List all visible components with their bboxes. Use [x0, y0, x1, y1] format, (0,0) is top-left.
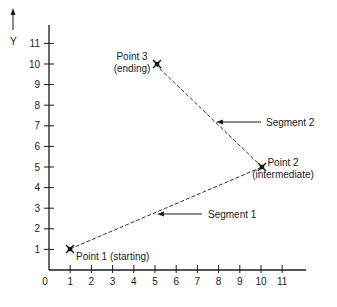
segment-1-arrow-icon	[157, 212, 202, 217]
x-tick-label: 6	[173, 276, 179, 287]
x-tick-label: 0	[42, 276, 48, 287]
y-tick-label: 4	[34, 182, 40, 193]
point-1-marker-icon	[66, 245, 74, 253]
segment-1-line	[70, 167, 262, 249]
y-tick-label: 2	[34, 223, 40, 234]
x-tick-label: 9	[237, 276, 243, 287]
x-tick-label: 7	[195, 276, 201, 287]
y-tick-label: 5	[34, 162, 40, 173]
point-1-label: Point 1 (starting)	[76, 251, 149, 262]
y-tick-label: 7	[34, 120, 40, 131]
segment-2-label: Segment 2	[266, 117, 315, 128]
y-tick-label: 6	[34, 141, 40, 152]
x-tick-label: 1	[67, 276, 73, 287]
x-tick-label: 10	[255, 276, 267, 287]
y-tick-label: 1	[34, 244, 40, 255]
x-tick-label: 5	[152, 276, 158, 287]
x-tick-label: 2	[89, 276, 95, 287]
x-ticks: 01234567891011	[42, 265, 288, 287]
y-tick-label: 9	[34, 79, 40, 90]
x-tick-label: 11	[277, 276, 288, 287]
segment-2-line	[155, 64, 262, 167]
coordinate-diagram: Y 1234567891011 01234567891011 Point 1 (…	[0, 0, 337, 307]
y-direction-arrow-icon	[11, 8, 16, 30]
point-3-marker-icon	[153, 60, 161, 68]
point-2-role: (intermediate)	[252, 169, 314, 180]
segment-1-label: Segment 1	[208, 209, 257, 220]
y-ticks: 1234567891011	[29, 38, 54, 255]
segment-2-arrow-icon	[216, 120, 261, 125]
point-2-name: Point 2	[267, 157, 299, 168]
y-axis-label: Y	[10, 36, 17, 47]
x-tick-label: 4	[131, 276, 137, 287]
y-tick-label: 11	[30, 38, 41, 49]
y-tick-label: 3	[34, 203, 40, 214]
x-tick-label: 3	[110, 276, 116, 287]
point-3-role: (ending)	[114, 63, 151, 74]
point-3-name: Point 3	[116, 51, 148, 62]
y-tick-label: 8	[34, 100, 40, 111]
y-tick-label: 10	[29, 59, 41, 70]
x-tick-label: 8	[216, 276, 222, 287]
